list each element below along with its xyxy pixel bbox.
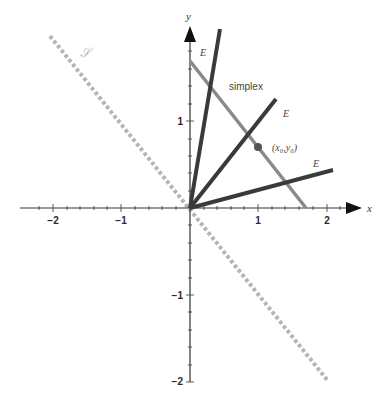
ray-label-e: E (312, 158, 319, 169)
hyperplane-label: 𝒮 (80, 45, 94, 60)
x-axis-arrow-icon (346, 202, 362, 214)
point-label: (x₀,y₀) (272, 142, 298, 154)
ray-label-e: E (282, 108, 289, 119)
y-tick-label: 1 (177, 116, 183, 127)
x-tick-label: 2 (324, 215, 330, 226)
y-tick-label: −2 (172, 376, 184, 387)
diagram-plot: −2 −1 1 2 x 1 −1 (0, 0, 389, 398)
point-x0-y0-marker (254, 143, 262, 151)
y-axis-label: y (185, 10, 191, 22)
simplex-label: simplex (229, 81, 263, 92)
x-tick-label: −1 (115, 215, 127, 226)
ray-e-shallow (190, 170, 333, 208)
x-tick-label: 1 (255, 215, 261, 226)
x-axis-label: x (366, 202, 372, 214)
y-tick-label: −1 (172, 290, 184, 301)
x-tick-label: −2 (47, 215, 59, 226)
ray-label-e: E (199, 47, 206, 58)
y-axis-arrow-icon (184, 26, 196, 42)
